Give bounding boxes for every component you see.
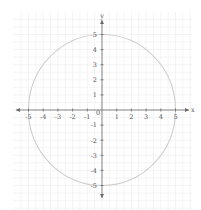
axes — [16, 20, 189, 198]
x-axis-left-arrow-icon — [16, 108, 20, 112]
y-tick-label: -1 — [91, 121, 97, 129]
x-tick-label: 3 — [144, 113, 148, 121]
y-axis-label: y — [99, 12, 104, 20]
x-tick-label: -1 — [84, 113, 90, 121]
y-tick-label: -3 — [91, 152, 97, 160]
x-tick-label: 1 — [115, 113, 119, 121]
y-tick-label: 3 — [93, 61, 97, 69]
y-tick-label: 1 — [93, 91, 97, 99]
x-tick-label: -2 — [69, 113, 75, 121]
x-tick-label: 4 — [159, 113, 163, 121]
y-tick-label: -2 — [91, 137, 97, 145]
x-tick-label: -4 — [40, 113, 46, 121]
coordinate-plane: -5-4-3-2-11234554321-1-2-3-4-5 x y 0 — [0, 0, 201, 210]
y-axis-up-arrow-icon — [100, 20, 104, 24]
x-tick-label: 5 — [173, 113, 177, 121]
x-tick-label: -3 — [55, 113, 61, 121]
x-tick-label: 2 — [129, 113, 133, 121]
y-tick-label: 2 — [93, 76, 97, 84]
y-tick-label: 5 — [93, 31, 97, 39]
x-tick-label: -5 — [25, 113, 31, 121]
y-tick-label: 4 — [93, 46, 97, 54]
y-tick-label: -5 — [91, 182, 97, 190]
y-tick-label: -4 — [91, 167, 97, 175]
y-axis-down-arrow-icon — [100, 194, 104, 198]
grid — [13, 12, 192, 210]
x-axis-right-arrow-icon — [185, 108, 189, 112]
origin-label: 0 — [96, 109, 100, 117]
x-axis-label: x — [191, 106, 195, 114]
